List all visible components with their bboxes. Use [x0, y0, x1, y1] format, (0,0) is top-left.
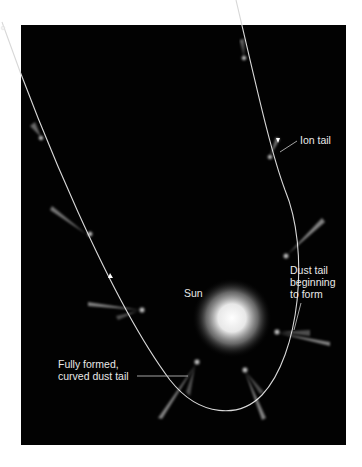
comet-icon: [242, 367, 267, 421]
comet-icon: [30, 122, 44, 141]
comet-icon: [283, 218, 325, 259]
comet-icon: [50, 206, 93, 237]
ion-tail-leader-line: [280, 141, 297, 152]
dust-tail-forming-label: Dust tail beginning to form: [290, 264, 336, 300]
comet-icon: [274, 329, 331, 347]
comet-icon: [0, 25, 6, 31]
comet-icon: [88, 302, 146, 320]
comet-icon: [267, 137, 280, 160]
sun-label: Sun: [184, 287, 203, 299]
ion-tail-label: Ion tail: [300, 134, 331, 146]
direction-arrow-icon: [108, 273, 113, 278]
sun-glow: [192, 278, 272, 358]
orbit-diagram: [0, 0, 362, 467]
dust-tail-formed-label: Fully formed, curved dust tail: [58, 358, 129, 382]
comet-icon: [158, 359, 201, 420]
